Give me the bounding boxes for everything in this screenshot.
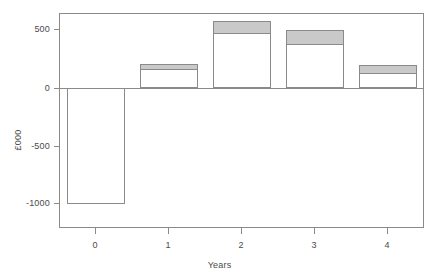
- plot-area: [59, 13, 424, 228]
- bar-year-2-upper-segment: [214, 22, 270, 34]
- y-axis-title: £000: [13, 115, 23, 165]
- x-tick-label-1: 1: [148, 240, 188, 250]
- x-axis-title: Years: [0, 260, 439, 270]
- x-tick-mark-2: [241, 228, 242, 234]
- x-tick-label-2: 2: [221, 240, 261, 250]
- bar-year-3-upper-segment: [287, 31, 343, 45]
- bar-chart: £000 500 0 -500 -1000: [0, 0, 439, 280]
- x-tick-label-3: 3: [294, 240, 334, 250]
- y-tick-label-500: 500: [4, 25, 50, 34]
- bar-year-3: [286, 30, 344, 88]
- bar-year-4: [359, 65, 417, 88]
- y-tick-label-minus-500: -500: [4, 142, 50, 151]
- bar-year-1: [140, 64, 198, 88]
- x-tick-mark-4: [387, 228, 388, 234]
- x-tick-mark-3: [314, 228, 315, 234]
- x-tick-mark-1: [168, 228, 169, 234]
- bar-year-2: [213, 21, 271, 88]
- x-tick-label-0: 0: [75, 240, 115, 250]
- x-tick-mark-0: [95, 228, 96, 234]
- y-tick-label-0: 0: [4, 84, 50, 93]
- bar-year-4-upper-segment: [360, 66, 416, 74]
- bar-year-1-upper-segment: [141, 65, 197, 70]
- y-tick-label-minus-1000: -1000: [4, 199, 50, 208]
- x-tick-label-4: 4: [367, 240, 407, 250]
- bar-year-0: [67, 88, 125, 204]
